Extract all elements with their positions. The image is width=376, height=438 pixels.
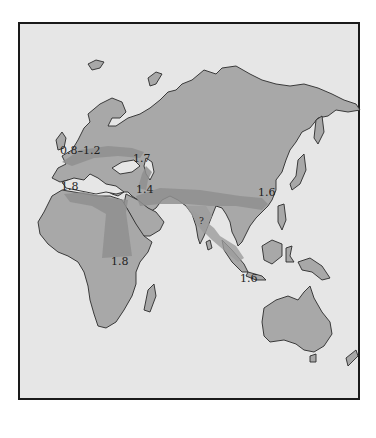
landmass-madagascar	[144, 284, 156, 312]
label-china: 1.6	[258, 187, 276, 198]
label-india: ?	[199, 217, 204, 226]
landmass-sulawesi	[286, 246, 294, 262]
landmass-new-zealand	[346, 350, 358, 366]
label-east-africa: 1.8	[111, 256, 129, 267]
landmass-philippines	[278, 204, 286, 230]
landmass-new-guinea	[298, 258, 330, 280]
landmass-svalbard	[148, 72, 162, 86]
label-north-africa: 1.8	[61, 181, 79, 192]
landmass-iceland	[88, 60, 104, 70]
label-middle-east: 1.4	[136, 184, 154, 195]
label-caucasus: 1.7	[133, 153, 151, 164]
landmass-tasmania	[310, 354, 316, 362]
landmass-sri-lanka	[206, 240, 212, 250]
landmass-borneo	[262, 240, 282, 264]
map-canvas	[0, 0, 376, 438]
landmass-australia	[262, 286, 332, 352]
label-europe-west: 0.8–1.2	[60, 145, 101, 156]
label-java: 1.6	[240, 273, 258, 284]
landmass-japan	[290, 154, 306, 190]
